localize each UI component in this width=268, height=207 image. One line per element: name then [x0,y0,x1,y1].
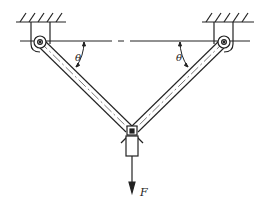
right-pin [218,36,230,48]
force-arrow [129,156,135,193]
left-pin [34,36,46,48]
bottom-pin [127,126,137,135]
left-bar [37,39,132,132]
angle-left-label: θ [75,52,81,63]
angle-right-label: θ [176,52,182,63]
truss-diagram: θ θ F [0,0,268,207]
force-label: F [139,186,148,199]
load-block [121,136,143,156]
